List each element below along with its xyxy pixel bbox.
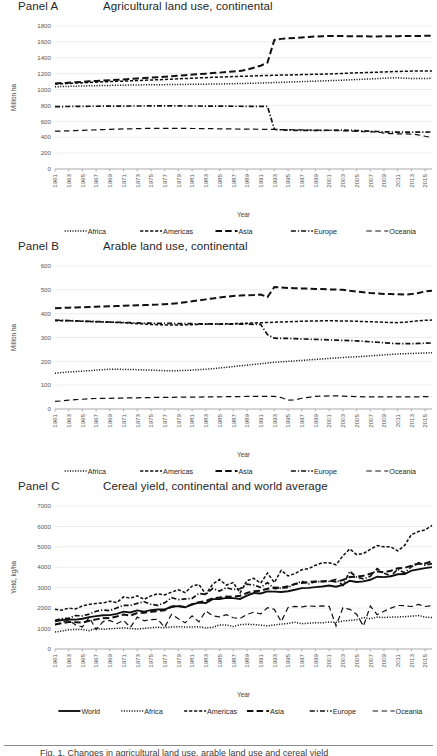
x-tick-label: 1967: [92, 653, 99, 667]
legend-label-africa[interactable]: Africa: [88, 227, 106, 236]
y-tick-label: 7000: [37, 502, 51, 509]
x-tick-label: 1981: [188, 173, 195, 187]
legend-label-asia[interactable]: Asia: [239, 467, 253, 476]
x-tick-label: 2011: [394, 173, 401, 187]
panel-a-title: Agricultural land use, continental: [103, 0, 273, 12]
x-tick-label: 2013: [408, 173, 415, 187]
legend-label-oceania[interactable]: Oceania: [396, 707, 423, 716]
x-tick-label: 1995: [284, 173, 291, 187]
panel-c-header: Panel C Cereal yield, continental and wo…: [0, 480, 437, 498]
y-tick-label: 1800: [37, 22, 51, 29]
x-tick-label: 1979: [175, 653, 182, 667]
y-tick-label: 200: [41, 358, 52, 365]
x-tick-label: 1965: [79, 653, 86, 667]
series-line-europe: [55, 320, 432, 344]
legend-label-europe[interactable]: Europe: [314, 227, 337, 236]
x-tick-label: 1977: [161, 173, 168, 187]
x-tick-label: 2009: [380, 653, 387, 667]
panel-b: Panel B Arable land use, continental 010…: [0, 240, 437, 480]
legend-label-world[interactable]: World: [81, 707, 100, 716]
x-tick-label: 1995: [284, 653, 291, 667]
panel-b-label: Panel B: [18, 240, 59, 252]
x-tick-label: 1973: [134, 173, 141, 187]
x-tick-label: 2005: [353, 413, 360, 427]
y-tick-label: 4000: [37, 563, 51, 570]
x-tick-label: 1971: [120, 173, 127, 187]
x-tick-label: 1971: [120, 653, 127, 667]
x-tick-label: 1961: [51, 173, 58, 187]
series-line-americas: [55, 71, 432, 84]
x-tick-label: 1989: [243, 653, 250, 667]
y-tick-label: 1000: [37, 86, 51, 93]
figure-divider: [4, 745, 433, 746]
y-axis-title: Million ha: [10, 84, 17, 111]
legend-label-europe[interactable]: Europe: [333, 707, 356, 716]
y-tick-label: 2000: [37, 604, 51, 611]
legend-label-oceania[interactable]: Oceania: [389, 467, 416, 476]
panel-b-header: Panel B Arable land use, continental: [0, 240, 437, 258]
legend-label-africa[interactable]: Africa: [144, 707, 162, 716]
x-tick-label: 1999: [312, 173, 319, 187]
panel-c-plot: 01000200030004000500060007000Yield, kg/h…: [0, 498, 437, 720]
x-tick-label: 1987: [230, 653, 237, 667]
panel-c-svg: 01000200030004000500060007000Yield, kg/h…: [0, 498, 437, 720]
x-tick-label: 1991: [257, 173, 264, 187]
legend-label-americas[interactable]: Americas: [163, 227, 193, 236]
series-line-africa: [55, 353, 432, 374]
x-tick-label: 2015: [421, 413, 428, 427]
x-tick-label: 1983: [202, 653, 209, 667]
x-tick-label: 2003: [339, 653, 346, 667]
x-tick-label: 2001: [325, 173, 332, 187]
legend-label-oceania[interactable]: Oceania: [389, 227, 416, 236]
y-tick-label: 100: [41, 381, 52, 388]
x-tick-label: 2003: [339, 413, 346, 427]
x-tick-label: 1993: [271, 413, 278, 427]
series-line-asia: [55, 287, 432, 308]
y-tick-label: 6000: [37, 523, 51, 530]
panel-a-plot: 020040060080010001200140016001800Million…: [0, 18, 437, 240]
legend-label-europe[interactable]: Europe: [314, 467, 337, 476]
legend-label-americas[interactable]: Americas: [207, 707, 237, 716]
x-tick-label: 1971: [120, 413, 127, 427]
y-tick-label: 1000: [37, 625, 51, 632]
panel-b-plot: 0100200300400500600Million ha19611963196…: [0, 258, 437, 480]
x-tick-label: 1975: [147, 413, 154, 427]
x-tick-label: 1981: [188, 653, 195, 667]
x-tick-label: 2013: [408, 653, 415, 667]
x-tick-label: 1983: [202, 413, 209, 427]
x-tick-label: 1979: [175, 413, 182, 427]
x-tick-label: 1967: [92, 413, 99, 427]
x-tick-label: 1965: [79, 173, 86, 187]
x-tick-label: 1999: [312, 653, 319, 667]
x-tick-label: 1987: [230, 173, 237, 187]
x-tick-label: 1979: [175, 173, 182, 187]
legend-label-africa[interactable]: Africa: [88, 467, 106, 476]
x-tick-label: 2001: [325, 413, 332, 427]
y-tick-label: 1600: [37, 38, 51, 45]
x-tick-label: 2007: [367, 413, 374, 427]
x-tick-label: 2001: [325, 653, 332, 667]
x-tick-label: 1997: [298, 413, 305, 427]
legend-label-americas[interactable]: Americas: [163, 467, 193, 476]
x-tick-label: 1989: [243, 413, 250, 427]
figure-container: Panel A Agricultural land use, continent…: [0, 0, 437, 756]
x-tick-label: 1969: [106, 413, 113, 427]
x-tick-label: 1989: [243, 173, 250, 187]
x-tick-label: 1973: [134, 413, 141, 427]
y-tick-label: 300: [41, 334, 52, 341]
x-tick-label: 1985: [216, 653, 223, 667]
y-tick-label: 400: [41, 310, 52, 317]
y-tick-label: 1200: [37, 70, 51, 77]
legend-label-asia[interactable]: Asia: [270, 707, 284, 716]
x-tick-label: 1975: [147, 653, 154, 667]
x-tick-label: 1997: [298, 653, 305, 667]
x-tick-label: 1997: [298, 173, 305, 187]
x-tick-label: 1969: [106, 173, 113, 187]
x-tick-label: 1977: [161, 413, 168, 427]
x-tick-label: 1961: [51, 653, 58, 667]
y-tick-label: 400: [41, 133, 52, 140]
y-tick-label: 500: [41, 286, 52, 293]
legend-label-asia[interactable]: Asia: [239, 227, 253, 236]
x-tick-label: 1983: [202, 173, 209, 187]
x-tick-label: 1963: [65, 653, 72, 667]
